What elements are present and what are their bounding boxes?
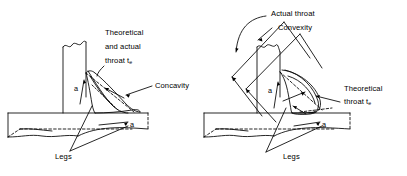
right-actual-throat-label: Actual throat (271, 9, 315, 18)
right-leg-a-vertical (274, 82, 280, 108)
left-concavity-leader (126, 86, 152, 98)
left-concavity-label: Concavity (155, 81, 189, 90)
left-theoretical-throat (86, 73, 134, 112)
left-legs-label: Legs (55, 152, 72, 161)
right-throat-subscript: e (368, 100, 371, 106)
right-legs-label: Legs (283, 152, 300, 161)
left-base-plate (8, 113, 148, 137)
right-throat-label-line1: Theoretical (344, 84, 382, 93)
right-vertical-plate (257, 45, 280, 113)
right-leg-a-horizontal (294, 122, 320, 126)
left-throat-label-line3: throat te (105, 56, 132, 65)
right-base-plate (204, 113, 350, 137)
left-leg-a-horizontal-label: a (130, 120, 134, 129)
left-leg-a-horizontal (99, 122, 128, 126)
left-throat-text: throat t (105, 56, 129, 65)
right-convexity-label: Convexity (278, 23, 312, 32)
right-actual-throat-dimension (232, 22, 322, 122)
right-leg-a-horizontal-label: a (322, 120, 326, 129)
left-leg-a-vertical (80, 80, 86, 104)
right-leg-a-vertical-label: a (268, 86, 272, 95)
right-throat-text: throat t (344, 97, 368, 106)
figure-canvas: Theoretical and actual throat te Concavi… (0, 0, 407, 176)
right-throat-arrows (283, 92, 306, 114)
right-panel-art (204, 16, 350, 152)
left-throat-label-line2: and actual (105, 42, 141, 51)
left-throat-subscript: e (129, 59, 132, 65)
right-throat-label-line2: throat te (344, 97, 371, 106)
left-throat-label-line1: Theoretical (105, 28, 143, 37)
left-vertical-plate (63, 41, 86, 113)
right-convexity-leader (258, 28, 272, 42)
left-leg-a-vertical-label: a (74, 84, 78, 93)
